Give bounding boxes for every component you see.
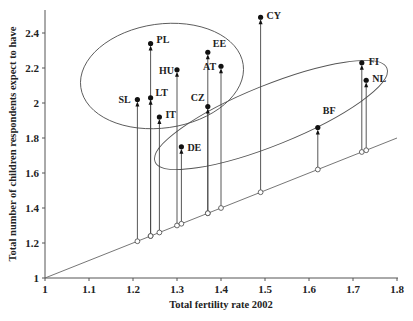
point-sl: SL bbox=[118, 94, 140, 244]
tfr-marker bbox=[315, 167, 320, 172]
y-tick-label: 1.2 bbox=[25, 237, 39, 249]
y-tick-label: 1.6 bbox=[25, 167, 39, 179]
arrowhead-icon bbox=[157, 119, 161, 124]
expected-marker bbox=[315, 125, 320, 130]
tfr-marker bbox=[364, 148, 369, 153]
expected-marker bbox=[148, 41, 153, 46]
x-tick-label: 1.8 bbox=[390, 283, 404, 295]
point-label: CY bbox=[267, 10, 282, 21]
y-tick-label: 1.4 bbox=[25, 202, 39, 214]
expected-marker bbox=[148, 95, 153, 100]
expected-marker bbox=[205, 50, 210, 55]
x-tick-label: 1.7 bbox=[346, 283, 360, 295]
arrowhead-icon bbox=[316, 130, 320, 135]
point-label: DE bbox=[187, 142, 201, 153]
arrowhead-icon bbox=[259, 19, 263, 24]
axes bbox=[45, 10, 398, 278]
point-bf: BF bbox=[315, 105, 335, 172]
expected-marker bbox=[179, 144, 184, 149]
arrowhead-icon bbox=[219, 68, 223, 73]
expected-marker bbox=[174, 67, 179, 72]
expected-marker bbox=[364, 78, 369, 83]
arrowhead-icon bbox=[149, 46, 153, 51]
point-label: NL bbox=[372, 73, 386, 84]
x-tick-label: 1 bbox=[42, 283, 48, 295]
point-label: PL bbox=[157, 34, 170, 45]
y-tick-label: 1.8 bbox=[25, 132, 39, 144]
expected-marker bbox=[157, 114, 162, 119]
tfr-marker bbox=[219, 206, 224, 211]
arrowhead-icon bbox=[360, 65, 364, 70]
x-tick-label: 1.3 bbox=[170, 283, 184, 295]
tfr-marker bbox=[135, 239, 140, 244]
expected-marker bbox=[218, 64, 223, 69]
point-label: FI bbox=[369, 56, 379, 67]
point-label: BF bbox=[323, 105, 336, 116]
x-tick-label: 1.5 bbox=[258, 283, 272, 295]
point-label: LT bbox=[156, 87, 169, 98]
y-tick-label: 1 bbox=[34, 272, 40, 284]
expected-marker bbox=[258, 15, 263, 20]
tfr-marker bbox=[205, 211, 210, 216]
point-de: DE bbox=[179, 142, 202, 226]
point-fi: FI bbox=[359, 56, 379, 155]
tfr-marker bbox=[148, 234, 153, 239]
y-tick-label: 2 bbox=[34, 97, 40, 109]
expected-marker bbox=[359, 60, 364, 65]
point-label: IT bbox=[165, 109, 176, 120]
arrowhead-icon bbox=[364, 82, 368, 87]
tfr-marker bbox=[179, 221, 184, 226]
x-tick-label: 1.2 bbox=[126, 283, 140, 295]
y-tick-label: 2.4 bbox=[25, 27, 39, 39]
x-axis-title: Total fertility rate 2002 bbox=[169, 299, 273, 310]
point-nl: NL bbox=[364, 73, 387, 152]
point-label: SL bbox=[118, 94, 131, 105]
tfr-marker bbox=[157, 230, 162, 235]
data-points: SLPLLTITHUDEEECZATCYBFFINL bbox=[118, 10, 386, 243]
expected-marker bbox=[135, 97, 140, 102]
point-at: AT bbox=[203, 61, 224, 210]
point-label: AT bbox=[203, 61, 216, 72]
point-label: EE bbox=[213, 38, 227, 49]
x-tick-label: 1.4 bbox=[214, 283, 228, 295]
arrowhead-icon bbox=[149, 100, 153, 105]
point-label: CZ bbox=[191, 92, 205, 103]
scatter-chart: 11.11.21.31.41.51.61.71.811.21.41.61.822… bbox=[0, 0, 413, 321]
expected-marker bbox=[205, 104, 210, 109]
y-tick-label: 2.2 bbox=[25, 62, 39, 74]
x-tick-label: 1.1 bbox=[82, 283, 96, 295]
arrowhead-icon bbox=[175, 72, 179, 77]
point-label: HU bbox=[159, 65, 174, 76]
arrowhead-icon bbox=[135, 102, 139, 107]
arrowhead-icon bbox=[179, 149, 183, 154]
point-cy: CY bbox=[258, 10, 282, 194]
arrowhead-icon bbox=[206, 54, 210, 59]
point-cz: CZ bbox=[191, 92, 211, 216]
y-axis-title: Total number of children respondents exp… bbox=[7, 26, 18, 261]
tfr-marker bbox=[258, 190, 263, 195]
group-ellipse-1 bbox=[74, 13, 251, 139]
x-tick-label: 1.6 bbox=[302, 283, 316, 295]
